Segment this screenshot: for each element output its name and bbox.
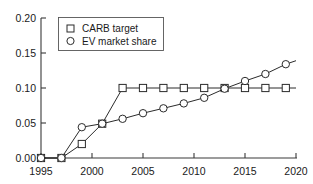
legend: CARB target EV market share: [59, 18, 164, 51]
legend-label-carb-target: CARB target: [82, 23, 138, 34]
circle-marker: [241, 77, 248, 84]
square-marker: [262, 84, 269, 91]
square-marker: [139, 84, 146, 91]
square-marker: [78, 140, 85, 147]
x-tick-label-2020: 2020: [284, 165, 308, 177]
square-marker: [119, 84, 126, 91]
x-tick-label-2005: 2005: [131, 165, 155, 177]
circle-marker: [78, 124, 85, 131]
circle-marker: [262, 70, 269, 77]
circle-marker: [201, 94, 208, 101]
x-tick-label-1995: 1995: [29, 165, 53, 177]
chart-container: 0.20 0.15 0.10 0.05 0.00 1995 2000 2005 …: [0, 0, 313, 184]
y-tick-label-020: 0.20: [16, 12, 37, 24]
x-tick-label-2015: 2015: [233, 165, 257, 177]
square-marker: [180, 84, 187, 91]
y-tick-label-005: 0.05: [16, 117, 37, 129]
y-tick-label-015: 0.15: [16, 47, 37, 59]
legend-label-ev-market-share: EV market share: [82, 36, 157, 47]
y-tick-label-010: 0.10: [16, 82, 37, 94]
x-tick-label-2010: 2010: [182, 165, 206, 177]
square-marker: [241, 84, 248, 91]
legend-square-marker: [67, 25, 74, 32]
circle-marker: [37, 154, 44, 161]
legend-circle-marker: [67, 37, 74, 44]
line-chart: 0.20 0.15 0.10 0.05 0.00 1995 2000 2005 …: [0, 0, 313, 184]
circle-marker: [221, 85, 228, 92]
square-marker: [282, 84, 289, 91]
circle-marker: [180, 100, 187, 107]
circle-marker: [139, 110, 146, 117]
square-marker: [201, 84, 208, 91]
circle-marker: [58, 154, 65, 161]
y-tick-label-000: 0.00: [16, 152, 37, 164]
circle-marker: [99, 120, 106, 127]
x-tick-label-2000: 2000: [80, 165, 104, 177]
circle-marker: [282, 60, 289, 67]
circle-marker: [119, 115, 126, 122]
circle-marker: [160, 105, 167, 112]
square-marker: [160, 84, 167, 91]
